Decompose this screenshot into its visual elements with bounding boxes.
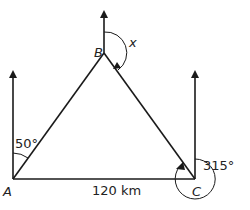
angle-label-c: 315°	[203, 158, 234, 173]
side-label-ac: 120 km	[92, 183, 141, 198]
triangle-abc	[13, 53, 195, 179]
north-line-a	[9, 70, 17, 179]
point-label-b: B	[94, 45, 103, 60]
angle-label-b: x	[128, 35, 137, 50]
point-label-a: A	[2, 184, 12, 199]
angle-label-a: 50°	[15, 136, 38, 151]
bearings-diagram: A B C 50° x 315° 120 km	[0, 0, 250, 210]
north-arrow-icon	[9, 70, 17, 78]
arc-arrow-icon	[113, 62, 121, 69]
north-line-c	[191, 70, 199, 179]
north-arrow-icon	[100, 10, 108, 18]
point-label-c: C	[192, 184, 202, 199]
north-arrow-icon	[191, 70, 199, 78]
angle-arc-b	[104, 32, 127, 70]
angle-arc-a	[13, 153, 28, 158]
